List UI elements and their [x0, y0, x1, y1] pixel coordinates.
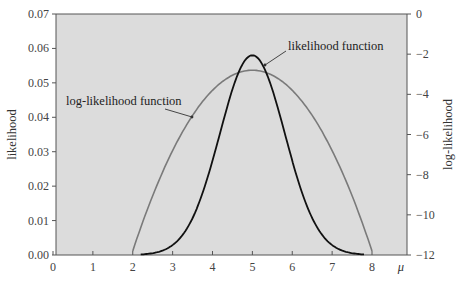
y-tick-label: 0.03	[28, 145, 49, 159]
y2-tick-label: 0	[416, 7, 422, 21]
y-tick-label: 0.06	[28, 41, 49, 55]
y-tick-label: 0.02	[28, 179, 49, 193]
y2-tick-label: −6	[416, 128, 429, 142]
y2-tick-label: −10	[416, 208, 435, 222]
x-axis-title: μ	[397, 260, 404, 274]
y2-axis-title: log-likelihood	[441, 98, 455, 170]
y2-tick-label: −8	[416, 168, 429, 182]
y2-tick-label: −12	[416, 248, 435, 262]
y-axis-title: likelihood	[5, 108, 19, 159]
likelihood-annotation: likelihood function	[288, 39, 384, 53]
x-tick-label: 5	[249, 260, 255, 274]
y-tick-label: 0.05	[28, 76, 49, 90]
y-tick-label: 0.04	[28, 110, 49, 124]
x-tick-label: 0	[50, 260, 56, 274]
arrow-head-icon	[264, 64, 267, 67]
log-likelihood-annotation: log-likelihood function	[66, 94, 182, 108]
x-tick-label: 3	[170, 260, 176, 274]
y-tick-label: 0.00	[28, 248, 49, 262]
x-tick-label: 4	[210, 260, 216, 274]
x-tick-label: 8	[369, 260, 375, 274]
x-tick-label: 7	[329, 260, 335, 274]
x-tick-label: 6	[289, 260, 295, 274]
y-tick-label: 0.07	[28, 7, 49, 21]
y2-tick-label: −4	[416, 87, 429, 101]
x-tick-label: 2	[130, 260, 136, 274]
y-tick-label: 0.01	[28, 214, 49, 228]
x-tick-label: 1	[90, 260, 96, 274]
arrow-head-icon	[191, 116, 194, 119]
likelihood-chart: 0.000.010.020.030.040.050.060.070−2−4−6−…	[0, 0, 463, 285]
y2-tick-label: −2	[416, 47, 429, 61]
